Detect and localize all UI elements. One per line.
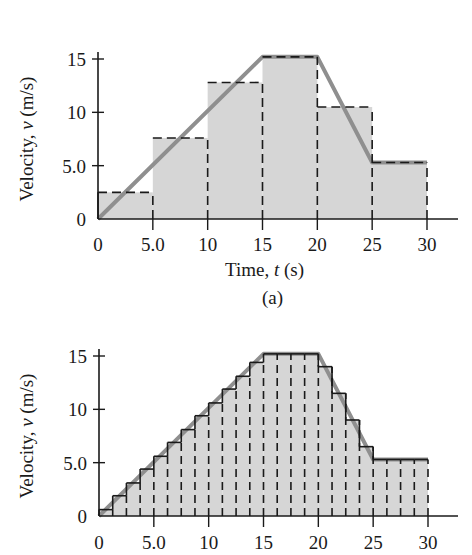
bar <box>222 389 236 516</box>
bar <box>154 456 168 516</box>
x-tick-label: 25 <box>363 234 382 255</box>
y-axis-label: Velocity, v (m/s) <box>16 374 38 499</box>
bar <box>250 362 264 516</box>
chart-panel-a: 05.0101505.01015202530Velocity, v (m/s)T… <box>16 49 458 309</box>
bar <box>195 416 209 516</box>
bar <box>318 367 332 516</box>
x-tick-label: 25 <box>364 532 383 553</box>
bar <box>264 354 278 516</box>
x-tick-label: 0 <box>93 234 103 255</box>
bar <box>209 403 223 516</box>
x-tick-label: 0 <box>94 532 104 553</box>
y-axis-label: Velocity, v (m/s) <box>16 77 38 202</box>
x-tick-label: 20 <box>309 532 328 553</box>
bar <box>401 459 415 516</box>
x-axis-label: Time, t (s) <box>225 259 304 281</box>
y-tick-label: 0 <box>77 209 87 230</box>
x-tick-label: 10 <box>199 532 218 553</box>
x-tick-label: 20 <box>308 234 327 255</box>
bar <box>373 459 387 516</box>
y-tick-label: 0 <box>78 506 88 527</box>
x-tick-label: 15 <box>254 532 273 553</box>
y-tick-label: 10 <box>68 399 87 420</box>
bar <box>372 162 427 219</box>
bar <box>263 57 318 219</box>
x-tick-label: 10 <box>198 234 217 255</box>
y-tick-label: 15 <box>68 346 87 367</box>
bar <box>332 393 346 516</box>
bar <box>181 430 195 516</box>
bar <box>277 354 291 516</box>
x-tick-label: 30 <box>418 234 437 255</box>
y-tick-label: 10 <box>67 102 86 123</box>
bar <box>346 420 360 516</box>
figure: 05.0101505.01015202530Velocity, v (m/s)T… <box>0 0 472 555</box>
x-tick-label: 5.0 <box>141 234 165 255</box>
y-tick-label: 5.0 <box>62 156 86 177</box>
bar <box>168 442 182 516</box>
y-tick-label: 5.0 <box>63 453 87 474</box>
bar <box>236 376 250 516</box>
bars <box>98 57 427 219</box>
panel-caption: (a) <box>262 287 283 309</box>
bar <box>98 192 153 219</box>
bar <box>153 138 208 219</box>
x-tick-label: 15 <box>253 234 272 255</box>
x-tick-label: 5.0 <box>142 532 166 553</box>
x-tick-label: 30 <box>419 532 438 553</box>
bar <box>414 459 428 516</box>
chart-panel-b: 05.0101505.01015202530Velocity, v (m/s) <box>16 346 458 553</box>
bar <box>317 107 372 219</box>
bar <box>387 459 401 516</box>
bar <box>305 354 319 516</box>
bar <box>291 354 305 516</box>
y-tick-label: 15 <box>67 49 86 70</box>
